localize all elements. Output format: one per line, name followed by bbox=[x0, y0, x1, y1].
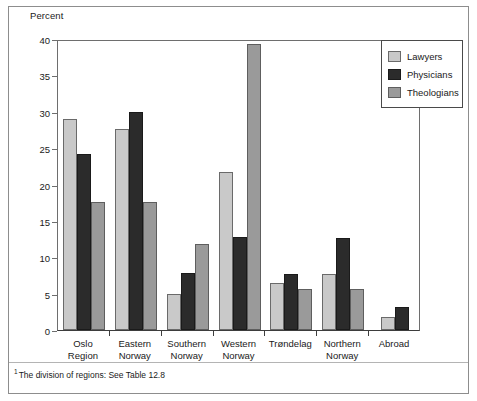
x-axis-category-label-line: Western bbox=[221, 338, 256, 350]
x-axis-category-label-line: Southern bbox=[167, 338, 206, 350]
y-axis-tick-label: 25 bbox=[39, 144, 50, 155]
bar bbox=[77, 154, 91, 330]
x-axis-category-label: OsloRegion bbox=[68, 338, 98, 362]
x-axis-category-label: EasternNorway bbox=[118, 338, 151, 362]
bar bbox=[395, 307, 409, 330]
bar bbox=[181, 273, 195, 330]
x-axis-category-label: SouthernNorway bbox=[167, 338, 206, 362]
bar bbox=[298, 289, 312, 330]
bar bbox=[115, 129, 129, 330]
legend-swatch-icon bbox=[388, 69, 401, 80]
bar bbox=[129, 112, 143, 330]
bar bbox=[284, 274, 298, 330]
legend-item: Theologians bbox=[388, 83, 457, 101]
y-axis-tick-label: 15 bbox=[39, 216, 50, 227]
bar bbox=[270, 283, 284, 330]
figure-container: Percent 0510152025303540 OsloRegionEaste… bbox=[0, 0, 477, 401]
legend-swatch-icon bbox=[388, 87, 401, 98]
bar bbox=[195, 244, 209, 330]
x-axis-category-label-line: Eastern bbox=[118, 338, 151, 350]
x-axis-tick-mark bbox=[264, 331, 265, 336]
x-axis-tick-mark bbox=[368, 331, 369, 336]
plot-area bbox=[57, 40, 420, 331]
x-axis-tick-mark bbox=[316, 331, 317, 336]
bar bbox=[63, 119, 77, 330]
footnote-label: The division of regions: See Table 12.8 bbox=[19, 370, 165, 380]
footnote-divider bbox=[9, 362, 468, 363]
y-axis-tick-label: 20 bbox=[39, 180, 50, 191]
x-axis-category-label-line: Oslo bbox=[68, 338, 98, 350]
y-axis-tick-labels: 0510152025303540 bbox=[26, 40, 50, 331]
x-axis-tick-mark bbox=[213, 331, 214, 336]
y-axis-ticks bbox=[50, 40, 57, 331]
x-axis-category-label-line: Northern bbox=[324, 338, 361, 350]
bar-series-container bbox=[58, 41, 419, 330]
bar bbox=[233, 237, 247, 330]
x-axis-category-label-line: Region bbox=[68, 350, 98, 362]
bar bbox=[381, 317, 395, 330]
x-axis-tick-mark bbox=[109, 331, 110, 336]
legend-item-label: Theologians bbox=[407, 87, 459, 98]
legend-item-label: Lawyers bbox=[407, 51, 442, 62]
footnote-marker: 1 bbox=[14, 368, 18, 375]
bar bbox=[247, 44, 261, 330]
bar bbox=[350, 289, 364, 330]
bar bbox=[143, 202, 157, 330]
x-axis-category-label-line: Norway bbox=[167, 350, 206, 362]
bar bbox=[336, 238, 350, 330]
legend-item: Physicians bbox=[388, 65, 457, 83]
bar bbox=[219, 172, 233, 330]
y-axis-tick-label: 30 bbox=[39, 107, 50, 118]
y-axis-tick-label: 35 bbox=[39, 71, 50, 82]
y-axis-tick-label: 10 bbox=[39, 253, 50, 264]
x-axis-category-label-line: Norway bbox=[221, 350, 256, 362]
x-axis-category-label: Abroad bbox=[379, 338, 410, 350]
footnote-text: 1The division of regions: See Table 12.8 bbox=[14, 368, 165, 380]
x-axis-tick-mark bbox=[161, 331, 162, 336]
chart-legend: LawyersPhysiciansTheologians bbox=[381, 40, 463, 108]
x-axis-category-label-line: Norway bbox=[324, 350, 361, 362]
x-axis-category-label: WesternNorway bbox=[221, 338, 256, 362]
x-axis-category-label: NorthernNorway bbox=[324, 338, 361, 362]
x-axis-category-label-line: Abroad bbox=[379, 338, 410, 350]
legend-item: Lawyers bbox=[388, 47, 457, 65]
x-axis-category-label-line: Trøndelag bbox=[269, 338, 312, 350]
x-axis-category-label: Trøndelag bbox=[269, 338, 312, 350]
legend-swatch-icon bbox=[388, 51, 401, 62]
bar bbox=[167, 294, 181, 330]
bar bbox=[322, 274, 336, 330]
y-axis-title: Percent bbox=[30, 10, 63, 21]
x-axis-tick-labels: OsloRegionEasternNorwaySouthernNorwayWes… bbox=[57, 338, 420, 372]
x-axis-category-label-line: Norway bbox=[118, 350, 151, 362]
bar bbox=[91, 202, 105, 330]
y-axis-tick-label: 40 bbox=[39, 35, 50, 46]
x-axis-ticks bbox=[57, 331, 420, 337]
legend-item-label: Physicians bbox=[407, 69, 452, 80]
